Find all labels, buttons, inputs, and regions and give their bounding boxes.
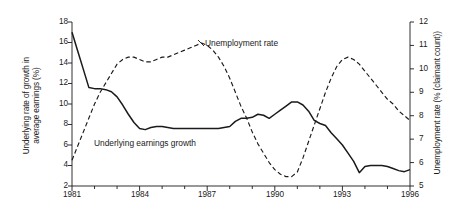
series-line-unemployment-rate: [72, 43, 410, 177]
chart-container: Underlying rate of growth in average ear…: [0, 0, 471, 219]
unemployment-label-leader: [198, 40, 204, 46]
plot-area: [0, 0, 471, 219]
series-group: [72, 32, 410, 176]
series-line-earnings-growth: [72, 32, 410, 172]
